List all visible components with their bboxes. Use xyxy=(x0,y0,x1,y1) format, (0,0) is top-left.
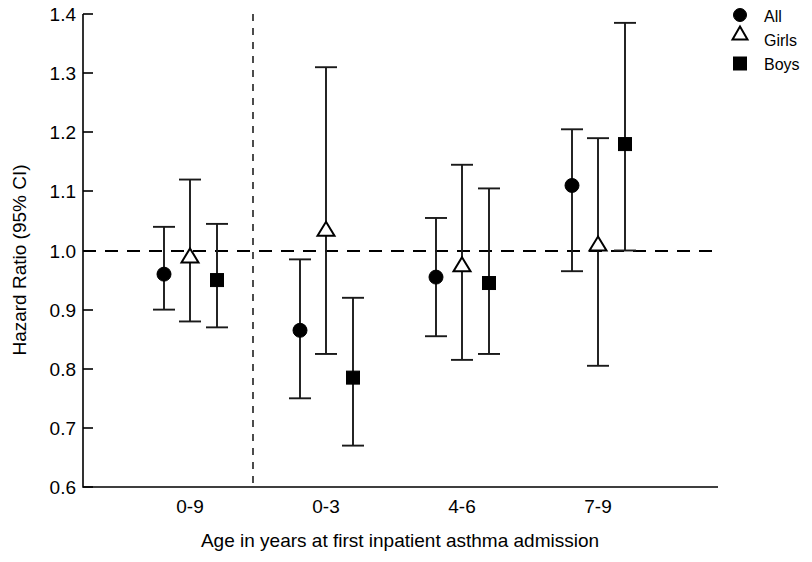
data-point-boys-0-9 xyxy=(206,224,228,327)
x-axis-title: Age in years at first inpatient asthma a… xyxy=(201,530,599,551)
x-tick-label-0-9: 0-9 xyxy=(176,496,203,517)
filled-circle-marker xyxy=(293,323,307,337)
x-tick-label-7-9: 7-9 xyxy=(584,496,611,517)
data-point-girls-4-6 xyxy=(451,165,473,360)
y-tick-label: 0.6 xyxy=(50,477,76,498)
y-tick-label: 1.3 xyxy=(50,63,76,84)
filled-circle-marker xyxy=(565,178,579,192)
filled-square-marker xyxy=(347,371,360,384)
data-point-all-0-9 xyxy=(153,227,175,310)
y-tick-label: 1.1 xyxy=(50,181,76,202)
data-point-boys-4-6 xyxy=(478,188,500,354)
legend-label-boys: Boys xyxy=(764,56,800,73)
filled-circle-marker xyxy=(429,270,443,284)
y-tick-label: 1.4 xyxy=(50,4,77,25)
forest-plot-figure: 1.4 1.3 1.2 1.1 1.0 0.9 0.8 0.7 0.6 0-9 … xyxy=(0,0,812,562)
data-point-all-7-9 xyxy=(561,129,583,271)
data-point-all-4-6 xyxy=(425,218,447,336)
y-axis-title: Hazard Ratio (95% CI) xyxy=(9,164,30,355)
y-tick-labels: 1.4 1.3 1.2 1.1 1.0 0.9 0.8 0.7 0.6 xyxy=(50,4,77,498)
legend: All Girls Boys xyxy=(733,8,800,73)
filled-square-marker xyxy=(211,274,224,287)
open-triangle-marker xyxy=(318,222,335,236)
y-tick-label: 0.8 xyxy=(50,359,76,380)
data-point-boys-7-9 xyxy=(614,23,636,251)
x-tick-label-4-6: 4-6 xyxy=(448,496,475,517)
open-triangle-marker xyxy=(590,237,607,251)
open-triangle-marker xyxy=(454,257,471,271)
legend-label-all: All xyxy=(764,8,782,25)
chart-svg: 1.4 1.3 1.2 1.1 1.0 0.9 0.8 0.7 0.6 0-9 … xyxy=(0,0,812,562)
data-point-boys-0-3 xyxy=(342,298,364,446)
filled-square-icon xyxy=(734,57,747,70)
open-triangle-icon xyxy=(733,27,748,40)
x-tick-label-0-3: 0-3 xyxy=(312,496,339,517)
y-tick-label: 0.9 xyxy=(50,300,76,321)
filled-square-marker xyxy=(483,277,496,290)
legend-item-all: All xyxy=(734,8,782,25)
filled-circle-icon xyxy=(734,9,747,22)
data-point-girls-0-3 xyxy=(315,67,337,354)
y-tick-label: 1.0 xyxy=(50,241,76,262)
filled-circle-marker xyxy=(157,267,171,281)
legend-item-boys: Boys xyxy=(734,56,800,73)
filled-square-marker xyxy=(619,138,632,151)
data-point-all-0-3 xyxy=(289,259,311,398)
x-tick-labels: 0-9 0-3 4-6 7-9 xyxy=(176,496,611,517)
legend-label-girls: Girls xyxy=(764,32,797,49)
data-points-layer xyxy=(153,23,636,446)
y-tick-label: 1.2 xyxy=(50,122,76,143)
y-tick-label: 0.7 xyxy=(50,418,76,439)
legend-item-girls: Girls xyxy=(733,27,797,50)
